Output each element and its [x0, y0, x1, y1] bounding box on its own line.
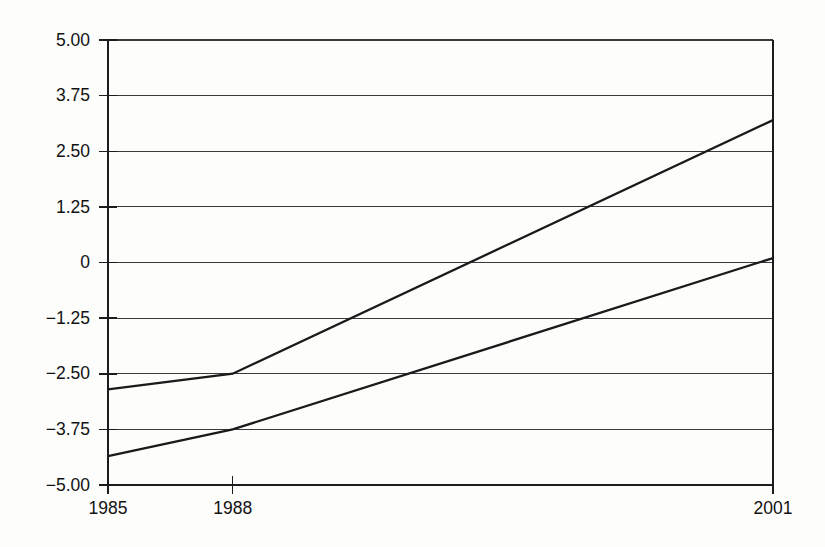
- chart-background: [0, 0, 825, 547]
- line-chart: 5.003.752.501.250−1.25−2.50−3.75−5.00 19…: [0, 0, 825, 547]
- y-tick-label: 1.25: [56, 197, 90, 217]
- chart-figure: 5.003.752.501.250−1.25−2.50−3.75−5.00 19…: [0, 0, 825, 547]
- y-tick-label: 2.50: [56, 141, 90, 161]
- x-tick-label: 1988: [213, 498, 252, 518]
- x-tick-label: 2001: [754, 498, 793, 518]
- y-tick-label: 5.00: [56, 30, 90, 50]
- y-tick-label: −3.75: [46, 419, 90, 439]
- y-tick-label: −1.25: [46, 308, 90, 328]
- y-tick-label: 3.75: [56, 85, 90, 105]
- x-tick-label: 1985: [89, 498, 128, 518]
- y-tick-label: 0: [80, 252, 90, 272]
- y-tick-label: −2.50: [46, 363, 91, 383]
- y-tick-label: −5.00: [46, 475, 91, 495]
